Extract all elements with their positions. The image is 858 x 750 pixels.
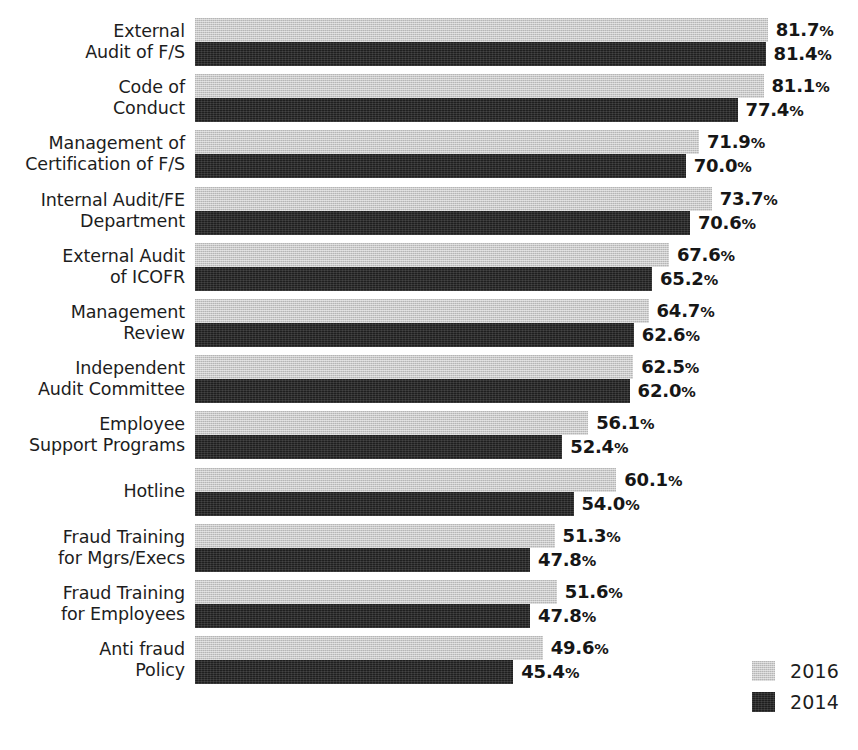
bar-value-label: 67.6% — [677, 243, 735, 268]
chart-category-group: Management of Certification of F/S71.9%7… — [0, 130, 858, 178]
category-label: Management of Certification of F/S — [0, 133, 185, 175]
bar-2016 — [195, 468, 616, 492]
bar-value-label: 47.8% — [538, 548, 596, 573]
bar-2016 — [195, 411, 588, 435]
bar-2014 — [195, 42, 766, 66]
bar-value-label: 62.6% — [642, 323, 700, 348]
bar-value-label: 51.6% — [565, 580, 623, 605]
chart-category-group: Employee Support Programs56.1%52.4% — [0, 411, 858, 459]
bar-2014 — [195, 604, 530, 628]
bar-2014 — [195, 323, 634, 347]
bar-2016 — [195, 130, 699, 154]
bar-2014 — [195, 660, 513, 684]
bar-value-label: 54.0% — [582, 492, 640, 517]
chart-category-group: Anti fraud Policy49.6%45.4% — [0, 636, 858, 684]
bar-2014 — [195, 492, 574, 516]
category-label: Management Review — [0, 302, 185, 344]
chart-category-group: Code of Conduct81.1%77.4% — [0, 74, 858, 122]
bar-2016 — [195, 299, 649, 323]
category-label: External Audit of F/S — [0, 21, 185, 63]
bar-2016 — [195, 636, 543, 660]
bar-2016 — [195, 580, 557, 604]
bar-2014 — [195, 154, 686, 178]
bar-value-label: 60.1% — [624, 468, 682, 493]
category-label: Fraud Training for Employees — [0, 583, 185, 625]
chart-category-group: External Audit of ICOFR67.6%65.2% — [0, 243, 858, 291]
category-label: Internal Audit/FE Department — [0, 190, 185, 232]
category-label: Independent Audit Committee — [0, 358, 185, 400]
bar-2014 — [195, 435, 562, 459]
bar-2014 — [195, 211, 690, 235]
bar-2016 — [195, 18, 768, 42]
bar-value-label: 81.7% — [776, 18, 834, 43]
chart-category-group: Fraud Training for Mgrs/Execs51.3%47.8% — [0, 524, 858, 572]
chart-category-group: Internal Audit/FE Department73.7%70.6% — [0, 187, 858, 235]
bar-value-label: 62.5% — [641, 355, 699, 380]
category-label: Fraud Training for Mgrs/Execs — [0, 527, 185, 569]
bar-value-label: 52.4% — [570, 435, 628, 460]
bar-2016 — [195, 355, 633, 379]
bar-value-label: 47.8% — [538, 604, 596, 629]
bar-value-label: 62.0% — [638, 379, 696, 404]
category-label: External Audit of ICOFR — [0, 246, 185, 288]
bar-value-label: 81.4% — [774, 42, 832, 67]
chart-category-group: Fraud Training for Employees51.6%47.8% — [0, 580, 858, 628]
legend-swatch-icon — [752, 661, 775, 681]
bar-value-label: 64.7% — [657, 299, 715, 324]
bar-2016 — [195, 524, 555, 548]
bar-value-label: 45.4% — [521, 660, 579, 685]
bar-2014 — [195, 267, 652, 291]
bar-value-label: 70.0% — [694, 154, 752, 179]
chart-category-group: External Audit of F/S81.7%81.4% — [0, 18, 858, 66]
chart-category-group: Management Review64.7%62.6% — [0, 299, 858, 347]
legend-swatch-icon — [752, 692, 775, 712]
bar-chart: External Audit of F/S81.7%81.4%Code of C… — [0, 0, 858, 750]
category-label: Employee Support Programs — [0, 414, 185, 456]
bar-value-label: 71.9% — [707, 130, 765, 155]
chart-category-group: Independent Audit Committee62.5%62.0% — [0, 355, 858, 403]
bar-2016 — [195, 74, 764, 98]
legend-label: 2016 — [790, 659, 839, 683]
bar-value-label: 77.4% — [746, 98, 804, 123]
bar-2014 — [195, 548, 530, 572]
bar-2014 — [195, 98, 738, 122]
bar-value-label: 51.3% — [563, 524, 621, 549]
bar-2016 — [195, 187, 712, 211]
bar-value-label: 56.1% — [596, 411, 654, 436]
bar-value-label: 70.6% — [698, 211, 756, 236]
chart-category-group: Hotline60.1%54.0% — [0, 468, 858, 516]
title-clipped-edge — [0, 0, 858, 6]
category-label: Anti fraud Policy — [0, 639, 185, 681]
bar-2014 — [195, 379, 630, 403]
category-label: Hotline — [0, 481, 185, 502]
category-label: Code of Conduct — [0, 77, 185, 119]
bar-2016 — [195, 243, 669, 267]
legend-label: 2014 — [790, 690, 839, 714]
bar-value-label: 81.1% — [772, 74, 830, 99]
bar-value-label: 65.2% — [660, 267, 718, 292]
bar-value-label: 49.6% — [551, 636, 609, 661]
bar-value-label: 73.7% — [720, 187, 778, 212]
